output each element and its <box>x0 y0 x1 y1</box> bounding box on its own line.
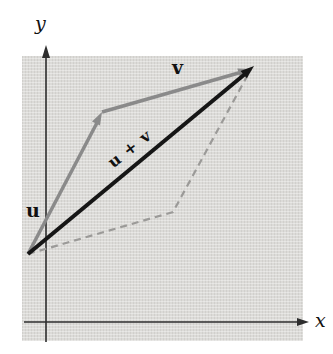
diagram-canvas <box>0 0 333 354</box>
vector-v-label: v <box>172 58 183 77</box>
y-axis-arrowhead-icon <box>42 45 50 58</box>
x-axis-arrowhead-icon <box>297 318 309 326</box>
y-axis-label: y <box>35 14 46 33</box>
x-axis-label: x <box>315 311 326 330</box>
vector-addition-figure: y x u v u + v <box>0 0 333 354</box>
vector-u-arrowhead-icon <box>92 112 102 126</box>
vector-u-label: u <box>26 201 40 220</box>
vector-u-line <box>28 119 99 254</box>
